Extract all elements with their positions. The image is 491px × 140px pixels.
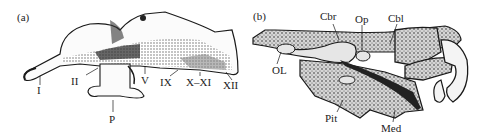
panel-b-tag: (b) [253,11,266,22]
label-cranial-nerve-IX: IX [160,77,172,88]
label-cerebrum-Cbr: Cbr [320,11,337,22]
braincast-drawing [0,0,245,140]
label-cerebellum-Cbl: Cbl [388,13,404,24]
label-cranial-nerve-I: I [37,85,41,96]
label-cranial-nerve-V: V [141,75,149,86]
panel-a-tag: (a) [17,12,29,23]
label-cranial-nerves-X-XI: X–XI [186,77,211,88]
label-cranial-nerve-II: II [71,76,78,87]
label-cranial-nerve-XII: XII [223,80,238,91]
panel-a-braincast-lateral: (a) I II P V IX X–XI XII [0,0,245,140]
label-pituitary-P: P [109,114,115,125]
label-optic-lobe-Op: Op [355,14,368,25]
label-olfactory-lobe-OL: OL [272,65,287,76]
label-pituitary-Pit: Pit [325,113,337,124]
label-medulla-Med: Med [381,123,401,134]
panel-b-skull-sagittal-section: (b) Cbr Op Cbl OL Pit Med [245,0,491,140]
